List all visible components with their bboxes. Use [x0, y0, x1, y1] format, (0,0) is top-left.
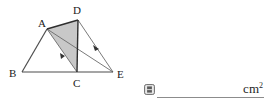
- vertex-label-a: A: [38, 17, 46, 29]
- vertex-label-c: C: [73, 77, 80, 89]
- answer-input-blank[interactable]: [157, 71, 241, 98]
- vertex-label-d: D: [73, 4, 81, 16]
- vertex-label-e: E: [117, 68, 124, 80]
- segment-AE: [47, 29, 113, 72]
- answer-area: cm2: [132, 0, 264, 105]
- answer-unit-exponent: 2: [259, 81, 263, 90]
- answer-box-icon[interactable]: [144, 84, 155, 95]
- answer-row: cm2: [144, 72, 264, 98]
- answer-unit-label: cm2: [241, 82, 264, 98]
- geometry-figure: A B C D E: [0, 0, 132, 105]
- geometry-figure-svg: A B C D E: [0, 0, 132, 105]
- answer-unit-text: cm: [243, 81, 259, 96]
- segment-DE: [78, 20, 113, 72]
- segment-DC: [77, 20, 78, 72]
- worksheet-problem-panel: A B C D E cm2: [0, 0, 264, 105]
- vertex-label-b: B: [9, 67, 16, 79]
- segment-AB: [22, 29, 47, 72]
